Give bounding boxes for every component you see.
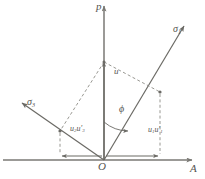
component-point-sigma3	[58, 129, 61, 132]
vector-diagram-figure: p A O σ1 σ3 u ϕ u2u′3 u1u′1	[0, 0, 205, 179]
parallelogram-side-left	[60, 62, 104, 131]
component-point-sigma1	[158, 90, 161, 93]
sigma-1-axis-line	[104, 26, 184, 160]
parallelogram-side-right	[104, 62, 160, 92]
component-right-second-sub: 1	[160, 129, 162, 134]
axis-label-p: p	[96, 1, 102, 12]
component-left-second-sub: 3	[82, 128, 84, 133]
sigma-1-subscript: 1	[178, 28, 181, 35]
sigma-3-subscript: 3	[32, 101, 35, 108]
sigma-1-axis-label: σ1	[173, 24, 181, 34]
sigma-3-axis-line	[22, 103, 104, 160]
sigma-3-axis-label: σ3	[27, 97, 35, 107]
component-label-left: u2u′3	[70, 125, 85, 133]
component-label-right: u1u′1	[148, 126, 163, 134]
resultant-vector-label: u	[114, 67, 119, 76]
origin-label-O: O	[98, 161, 106, 172]
angle-label-phi: ϕ	[119, 104, 124, 114]
vector-tip-point-u	[103, 61, 106, 64]
axis-label-A: A	[190, 163, 197, 174]
